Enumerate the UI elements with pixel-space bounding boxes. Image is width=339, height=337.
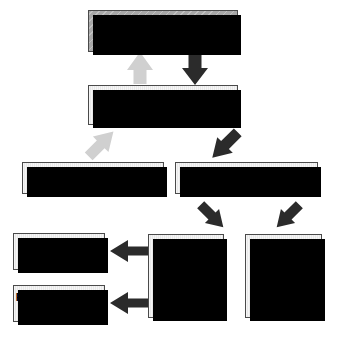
box-somatic-nervous-system-label-line1: Somatic — [262, 257, 304, 270]
box-somatic-nervous-system-label-line2: nervous — [262, 270, 304, 283]
box-pns-label: PNS — [152, 99, 174, 112]
arrow-autonomic-to-parasympathetic-icon — [110, 292, 148, 314]
arrow-sensory-to-pns-icon — [81, 124, 121, 164]
arrow-motor-to-somatic-icon — [270, 198, 307, 235]
arrow-autonomic-to-sympathetic-icon — [110, 240, 148, 262]
box-cns-label: CNS — [152, 25, 175, 38]
box-autonomic-nervous-system-label-line1: Autonomic — [158, 257, 215, 270]
box-somatic-nervous-system-label-line3: system — [265, 282, 302, 295]
box-autonomic-nervous-system-label-line2: nervous — [165, 270, 207, 283]
box-motor-division[interactable]: Motor division — [175, 162, 318, 194]
box-autonomic-nervous-system[interactable]: Autonomic nervous system — [148, 234, 224, 318]
box-parasympathetic-division-label-line2: division — [39, 304, 80, 317]
box-sympathetic-division-label-line2: division — [39, 252, 80, 265]
nervous-system-flow-diagram: CNS PNS Sensory division Motor division … — [0, 0, 339, 337]
box-parasympathetic-division-label-line1: Parasympathetic — [16, 291, 103, 304]
box-sympathetic-division-label-line1: Sympathetic — [27, 239, 91, 252]
box-cns[interactable]: CNS — [88, 10, 238, 52]
arrow-motor-to-autonomic-icon — [194, 198, 231, 235]
box-pns[interactable]: PNS — [88, 85, 238, 125]
box-autonomic-nervous-system-label-line3: system — [167, 282, 204, 295]
box-parasympathetic-division[interactable]: Parasympathetic division — [13, 285, 105, 322]
box-sensory-division-label: Sensory division — [50, 172, 136, 185]
arrow-pns-to-motor-icon — [204, 124, 245, 165]
box-sensory-division[interactable]: Sensory division — [22, 162, 164, 194]
box-motor-division-label: Motor division — [210, 172, 284, 185]
box-somatic-nervous-system[interactable]: Somatic nervous system — [245, 234, 322, 318]
box-sympathetic-division[interactable]: Sympathetic division — [13, 233, 105, 270]
arrow-cns-to-pns-icon — [182, 52, 208, 85]
arrow-pns-to-cns-icon — [127, 52, 153, 84]
